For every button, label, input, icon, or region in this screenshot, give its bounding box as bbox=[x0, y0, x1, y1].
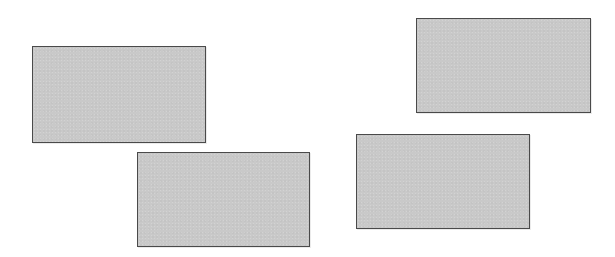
rectangle-bottom-left bbox=[137, 152, 310, 247]
rectangle-top-left bbox=[32, 46, 206, 143]
rectangle-bottom-right bbox=[356, 134, 530, 229]
rectangle-top-right bbox=[416, 18, 591, 113]
diagram-canvas bbox=[0, 0, 615, 257]
